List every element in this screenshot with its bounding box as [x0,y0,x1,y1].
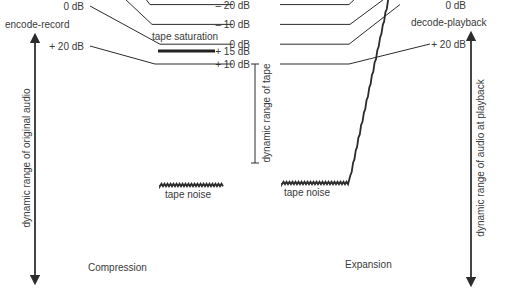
tape-noise-trace-left [160,184,223,186]
tape-saturation-label: tape saturation [152,31,218,42]
tape-noise-trace-right [282,0,430,184]
tape-saturation-level: + 15 dB [215,46,250,57]
tape-noise-label-left: tape noise [165,189,212,200]
right-level-label: + 20 dB [431,39,466,50]
expansion-line [280,0,430,5]
left-axis-label: dynamic range of original audio [21,88,32,227]
compression-caption: Compression [88,262,147,273]
tape-axis-label: dynamic range of tape [261,63,272,162]
mapping-lines [90,0,430,64]
compression-line [90,0,233,24]
compander-diagram: encode-record decode-playback dynamic ra… [0,0,506,299]
decode-playback-title: decode-playback [411,17,488,28]
left-level-label: + 20 dB [49,41,84,52]
expansion-line [280,0,430,24]
encode-record-title: encode-record [5,19,69,30]
tape-level-label: – 20 dB [216,0,251,11]
right-axis-label: dynamic range of audio at playback [475,78,486,236]
tape-noise-label-right: tape noise [284,187,331,198]
right-level-label: 0 dB [445,0,466,11]
expansion-line [280,44,430,64]
left-level-label: 0 dB [63,1,84,12]
compression-line [90,0,233,5]
tape-level-labels: + 10 dB0 dB– 10 dB– 20 dB– 30 dB– 40 dB+… [215,0,250,70]
expansion-caption: Expansion [345,259,392,270]
tape-noise-traces [160,0,430,186]
compression-line [90,46,233,64]
